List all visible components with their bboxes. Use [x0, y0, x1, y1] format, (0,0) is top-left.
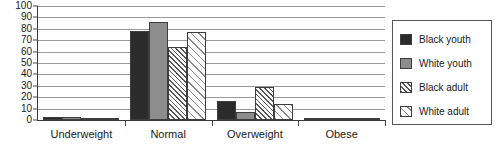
y-tick-mark — [33, 51, 38, 52]
y-tick-mark — [33, 97, 38, 98]
x-axis-labels: UnderweightNormalOverweightObese — [38, 128, 385, 150]
gridline — [38, 52, 385, 53]
bar-black-youth-overweight — [217, 101, 236, 120]
bar-white-youth-overweight — [236, 112, 255, 120]
y-axis-labels: 0102030405060708090100 — [0, 6, 32, 120]
y-tick-mark — [33, 120, 38, 121]
gridline — [38, 109, 385, 110]
y-tick-mark — [33, 17, 38, 18]
x-tick-label-obese: Obese — [325, 128, 357, 141]
bar-white-adult-normal — [187, 32, 206, 120]
x-tick-mark — [125, 121, 126, 126]
bar-white-adult-overweight — [274, 104, 293, 120]
bar-black-adult-overweight — [255, 87, 274, 120]
legend-swatch-white-youth-icon — [400, 58, 412, 69]
y-tick-mark — [33, 74, 38, 75]
legend-label: White youth — [419, 58, 472, 69]
y-tick-label: 0 — [26, 115, 32, 125]
y-tick-label: 50 — [21, 58, 32, 68]
legend-swatch-black-youth-icon — [400, 34, 412, 45]
legend-item-black-youth: Black youth — [400, 28, 486, 51]
legend-item-white-adult: White adult — [400, 100, 486, 123]
gridline — [38, 6, 385, 7]
y-tick-label: 10 — [21, 104, 32, 114]
y-tick-label: 90 — [21, 12, 32, 22]
gridline — [38, 40, 385, 41]
bar-black-youth-normal — [130, 31, 149, 120]
x-tick-mark — [212, 121, 213, 126]
legend-label: Black youth — [419, 34, 471, 45]
bar-black-adult-normal — [168, 47, 187, 120]
plot-area — [38, 6, 385, 120]
y-tick-mark — [33, 28, 38, 29]
y-tick-label: 80 — [21, 24, 32, 34]
legend-swatch-black-adult-icon — [400, 82, 412, 93]
y-tick-label: 70 — [21, 35, 32, 45]
x-tick-mark — [298, 121, 299, 126]
x-tick-mark — [385, 121, 386, 126]
gridline — [38, 63, 385, 64]
y-tick-mark — [33, 40, 38, 41]
y-tick-mark — [33, 85, 38, 86]
y-tick-label: 30 — [21, 81, 32, 91]
y-tick-label: 60 — [21, 47, 32, 57]
legend-label: White adult — [419, 106, 469, 117]
gridline — [38, 74, 385, 75]
y-tick-label: 40 — [21, 69, 32, 79]
gridline — [38, 29, 385, 30]
y-tick-mark — [33, 6, 38, 7]
x-tick-label-normal: Normal — [150, 128, 185, 141]
x-tick-label-underweight: Underweight — [50, 128, 112, 141]
y-tick-mark — [33, 108, 38, 109]
gridline — [38, 17, 385, 18]
gridline — [38, 97, 385, 98]
y-tick-label: 20 — [21, 92, 32, 102]
legend-swatch-white-adult-icon — [400, 106, 412, 117]
y-tick-label: 100 — [15, 1, 32, 11]
x-tick-label-overweight: Overweight — [227, 128, 283, 141]
legend-item-black-adult: Black adult — [400, 76, 486, 99]
bar-chart: 0102030405060708090100 UnderweightNormal… — [0, 0, 498, 157]
legend-item-white-youth: White youth — [400, 52, 486, 75]
legend-label: Black adult — [419, 82, 468, 93]
bar-white-youth-normal — [149, 22, 168, 120]
y-tick-mark — [33, 63, 38, 64]
chart-legend: Black youthWhite youthBlack adultWhite a… — [392, 20, 492, 125]
gridline — [38, 86, 385, 87]
